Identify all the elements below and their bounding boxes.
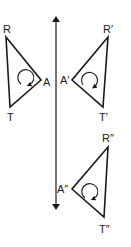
triangle-image: R″ A″ T″ — [57, 132, 114, 235]
triangle-original: R A T — [3, 23, 51, 123]
label-R-double-prime: R″ — [102, 132, 114, 144]
counterclockwise-arrow-icon — [82, 184, 98, 199]
label-A-double-prime: A″ — [57, 183, 68, 195]
triangle-reflection: R′ A′ T′ — [60, 23, 113, 123]
label-A: A — [43, 76, 51, 88]
counterclockwise-arrow-icon — [82, 72, 98, 87]
transformation-diagram: R A T R′ A′ T′ R″ A″ T″ — [0, 0, 131, 247]
label-A-prime: A′ — [60, 74, 69, 86]
label-R: R — [3, 23, 11, 35]
clockwise-arrow-icon — [18, 70, 34, 85]
label-R-prime: R′ — [103, 23, 113, 35]
label-T: T — [7, 111, 14, 123]
label-T-double-prime: T″ — [99, 223, 110, 235]
label-T-prime: T′ — [99, 111, 108, 123]
